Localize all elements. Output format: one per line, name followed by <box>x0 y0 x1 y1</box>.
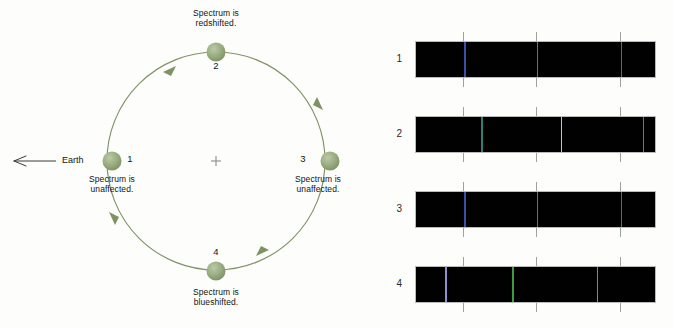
spectrum-reference-tick <box>620 78 621 87</box>
orbit-body-3 <box>321 152 340 171</box>
earth-direction-arrow <box>14 156 56 166</box>
earth-label: Earth <box>62 155 84 165</box>
spectrum-row-label-2: 2 <box>388 128 402 139</box>
spectrum-reference-tick <box>620 303 621 312</box>
spectrum-row-label-3: 3 <box>388 203 402 214</box>
spectrum-reference-tick <box>536 107 537 116</box>
spectral-line <box>445 267 447 302</box>
orbit-body-1 <box>103 152 122 171</box>
spectrum-band-4 <box>415 266 656 303</box>
spectrum-reference-tick <box>620 107 621 116</box>
spectrum-row-label-1: 1 <box>388 53 402 64</box>
spectrum-reference-tick <box>620 257 621 266</box>
spectral-line <box>621 42 623 77</box>
spectrum-reference-tick <box>463 303 464 312</box>
orbit-caption-1: Spectrum is unaffected. <box>52 175 172 194</box>
spectrum-reference-tick <box>536 78 537 87</box>
spectrum-band-1 <box>415 41 656 78</box>
spectrum-reference-tick <box>620 228 621 237</box>
spectral-line <box>464 42 466 77</box>
orbit-body-4 <box>207 262 226 281</box>
spectral-line <box>512 267 514 302</box>
spectrum-reference-tick <box>536 182 537 191</box>
spectral-line <box>621 192 623 227</box>
figure-canvas: Earth 1 Spectrum is unaffected. 2 Spectr… <box>0 0 673 328</box>
spectrum-reference-tick <box>463 32 464 41</box>
spectrum-reference-tick <box>536 257 537 266</box>
spectrum-reference-tick <box>536 303 537 312</box>
spectrum-band-3 <box>415 191 656 228</box>
orbit-caption-3: Spectrum is unaffected. <box>258 175 378 194</box>
orbit-center-marker <box>211 156 221 166</box>
orbit-caption-2: Spectrum is redshifted. <box>156 9 276 28</box>
spectrum-row-label-4: 4 <box>388 278 402 289</box>
spectrum-reference-tick <box>620 182 621 191</box>
spectral-line <box>561 117 563 152</box>
spectrum-reference-tick <box>463 257 464 266</box>
spectrum-reference-tick <box>463 228 464 237</box>
spectral-line <box>537 42 539 77</box>
spectrum-reference-tick <box>620 32 621 41</box>
spectrum-band-2 <box>415 116 656 153</box>
spectral-line <box>464 192 466 227</box>
spectrum-reference-tick <box>463 153 464 162</box>
orbit-body-2 <box>207 43 226 62</box>
spectrum-reference-tick <box>536 228 537 237</box>
spectral-line <box>537 192 539 227</box>
spectral-line <box>481 117 483 152</box>
spectrum-reference-tick <box>536 32 537 41</box>
orbit-position-number-3: 3 <box>296 153 310 164</box>
orbit-position-number-2: 2 <box>209 60 223 71</box>
spectrum-reference-tick <box>463 182 464 191</box>
orbit-position-number-4: 4 <box>209 246 223 257</box>
orbit-caption-4: Spectrum is blueshifted. <box>156 288 276 307</box>
spectral-line <box>597 267 599 302</box>
orbit-position-number-1: 1 <box>123 153 137 164</box>
spectrum-reference-tick <box>620 153 621 162</box>
spectrum-reference-tick <box>463 107 464 116</box>
spectrum-reference-tick <box>536 153 537 162</box>
spectrum-reference-tick <box>463 78 464 87</box>
spectral-line <box>643 117 645 152</box>
